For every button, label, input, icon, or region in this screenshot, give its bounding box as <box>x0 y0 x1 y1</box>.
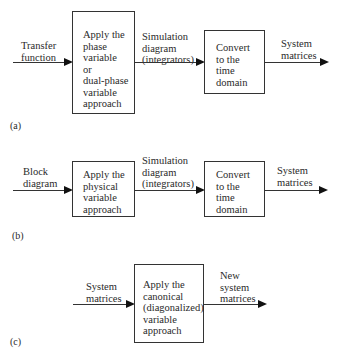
mid-label-simulation-diagram: Simulation diagram (integrators) <box>142 155 194 190</box>
input-label-transfer-function: Transfer function <box>21 40 56 63</box>
output-label-new-system-matrices: New system matrices <box>220 270 256 305</box>
block-convert-time-domain: Convert to the time domain <box>204 30 265 94</box>
arrow-line <box>135 62 197 63</box>
part-label-a: (a) <box>10 120 21 131</box>
output-label-system-matrices: System matrices <box>277 165 313 188</box>
input-label-system-matrices: System matrices <box>86 281 122 304</box>
arrow-line <box>204 304 260 305</box>
block-phase-variable: Apply the phase variable or dual-phase v… <box>72 11 135 114</box>
part-label-b: (b) <box>12 230 24 241</box>
arrow-line <box>13 190 65 191</box>
block-canonical-variable: Apply the canonical (diagonalized) varia… <box>134 264 204 343</box>
arrow-line <box>265 190 321 191</box>
arrow-line <box>13 62 65 63</box>
block-text: Convert to the time domain <box>216 42 250 88</box>
arrow-head-icon <box>258 300 267 308</box>
arrow-line <box>73 304 127 305</box>
block-text: Apply the canonical (diagonalized) varia… <box>143 279 204 337</box>
arrow-head-icon <box>320 58 329 66</box>
block-physical-variable: Apply the physical variable approach <box>72 161 135 217</box>
output-label-system-matrices: System matrices <box>281 38 317 61</box>
part-label-c: (c) <box>10 336 21 347</box>
block-text: Convert to the time domain <box>216 169 250 215</box>
input-label-block-diagram: Block diagram <box>23 166 57 189</box>
block-convert-time-domain: Convert to the time domain <box>204 161 265 217</box>
arrow-head-icon <box>319 186 328 194</box>
arrow-line <box>135 190 197 191</box>
block-text: Apply the physical variable approach <box>83 169 125 215</box>
arrow-line <box>265 62 322 63</box>
block-text: Apply the phase variable or dual-phase v… <box>83 29 128 110</box>
mid-label-simulation-diagram: Simulation diagram (integrators) <box>142 31 194 66</box>
